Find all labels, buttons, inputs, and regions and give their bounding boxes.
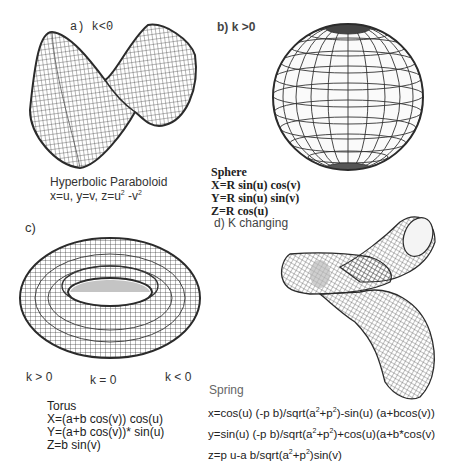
hyperbolic-paraboloid-figure xyxy=(0,20,200,170)
spring-equations: x=cos(u) (-p b)/sqrt(a2+p2)-sin(u) (a+bc… xyxy=(208,401,435,463)
panel-c-label: c) xyxy=(25,220,36,235)
torus-equation-z: Z=b sin(v) xyxy=(47,439,164,452)
spring-equation-x: x=cos(u) (-p b)/sqrt(a2+p2)-sin(u) (a+bc… xyxy=(208,401,435,422)
curvature-label-positive: k > 0 xyxy=(26,370,52,384)
spring-equation-y: y=sin(u) (-p b)/sqrt(a2+p2)+cos(u)(a+b*c… xyxy=(208,422,435,443)
torus-figure xyxy=(15,236,205,366)
hyperbolic-paraboloid-title: Hyperbolic Paraboloid xyxy=(50,175,167,189)
spring-figure xyxy=(260,212,450,402)
spring-equation-z: z=p u-a b/sqrt(a2+p2)sin(v) xyxy=(208,443,435,464)
panel-b-label: b) k >0 xyxy=(217,20,255,34)
hyperbolic-paraboloid-caption: Hyperbolic Paraboloid x=u, y=v, z=u2 -v2 xyxy=(50,175,167,203)
sphere-caption: Sphere X=R sin(u) cos(v) Y=R sin(u) sin(… xyxy=(211,166,301,218)
torus-caption: Torus X=(a+b cos(v)) cos(u) Y=(a+b cos(v… xyxy=(47,400,164,452)
spring-title: Spring xyxy=(209,383,244,397)
sphere-figure xyxy=(268,22,428,172)
curvature-label-negative: k < 0 xyxy=(165,370,191,384)
hyperbolic-paraboloid-equation: x=u, y=v, z=u2 -v2 xyxy=(50,189,167,203)
curvature-label-zero: k = 0 xyxy=(90,373,116,387)
